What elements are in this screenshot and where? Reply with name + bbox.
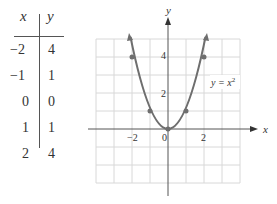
x-axis-label: x [262,123,268,135]
parabola-graph: x y −2 0 2 2 4 y = x2 [0,0,277,204]
data-point [148,109,153,114]
data-point [166,127,171,132]
y-axis-arrow-icon [165,17,171,25]
x-tick-label: 0 [162,132,167,143]
x-tick-label: −2 [127,132,138,143]
x-axis-arrow-icon [250,126,258,132]
y-tick-label: 4 [161,50,166,61]
y-axis-label: y [165,4,171,16]
curve-arrow-left-icon [127,33,133,41]
curve-arrow-right-icon [203,33,209,41]
data-point [184,109,189,114]
x-tick-label: 2 [201,132,206,143]
data-point [130,55,135,60]
data-point [202,55,207,60]
y-tick-label: 2 [161,88,166,99]
